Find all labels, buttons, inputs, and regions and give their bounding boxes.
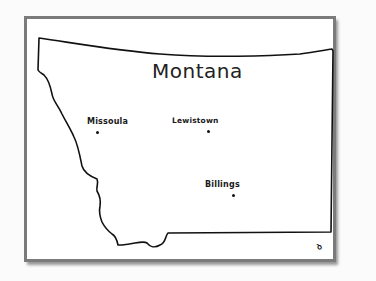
city-dot-billings: [232, 194, 235, 197]
city-label-lewistown: Lewistown: [172, 117, 219, 125]
map-worksheet: Montana Missoula Lewistown Billings ꝺ: [0, 0, 376, 281]
city-dot-lewistown: [207, 130, 210, 133]
city-label-billings: Billings: [205, 181, 240, 189]
city-label-missoula: Missoula: [87, 118, 128, 126]
city-dot-missoula: [96, 131, 99, 134]
state-title: Montana: [152, 61, 243, 81]
